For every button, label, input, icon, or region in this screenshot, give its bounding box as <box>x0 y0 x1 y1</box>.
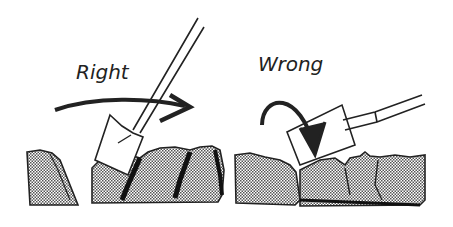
soil-block-icon <box>300 152 425 206</box>
spade-handle-icon <box>343 95 425 130</box>
wrong-panel <box>235 95 425 206</box>
right-label: Right <box>76 60 129 84</box>
illustration: Right Wrong <box>0 0 453 227</box>
wrong-label: Wrong <box>258 52 323 76</box>
soil-block-icon <box>235 153 300 205</box>
arrow-right-icon <box>55 100 185 110</box>
spade-technique-illustration <box>0 0 453 227</box>
right-panel <box>27 18 224 205</box>
